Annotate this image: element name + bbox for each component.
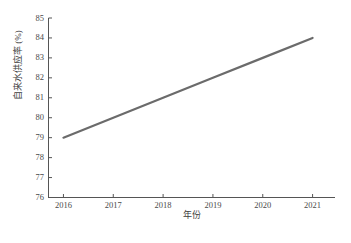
x-axis-tick-label: 2019 bbox=[204, 200, 221, 210]
x-axis-tick-label: 2016 bbox=[55, 200, 72, 210]
x-axis-tick-labels: 201620172018201920202021 bbox=[0, 0, 351, 243]
x-axis-title: 年份 bbox=[48, 210, 335, 221]
chart-figure: 自来水供应率 (%) 76777879808182838485 20162017… bbox=[0, 0, 351, 243]
x-axis-tick-label: 2020 bbox=[254, 200, 271, 210]
x-axis-tick-label: 2018 bbox=[155, 200, 172, 210]
x-axis-tick-label: 2017 bbox=[105, 200, 122, 210]
x-axis-tick-label: 2021 bbox=[304, 200, 321, 210]
